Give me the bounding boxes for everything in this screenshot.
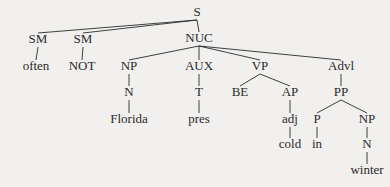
edge-NUC-Advl [199, 46, 341, 60]
leaf-in: in [311, 137, 323, 150]
node-p: P [312, 112, 321, 125]
edge-S-SM1 [38, 20, 197, 33]
node-advl: Advl [327, 59, 355, 72]
node-nuc: NUC [184, 31, 213, 44]
node-np-subject: NP [120, 59, 139, 72]
node-np-object: NP [358, 112, 377, 125]
node-s: S [192, 5, 201, 18]
leaf-pres: pres [187, 112, 211, 125]
edge-S-SM2 [83, 20, 197, 33]
node-n-object: N [361, 137, 372, 150]
node-pp: PP [333, 85, 349, 98]
node-adj: adj [281, 112, 299, 125]
leaf-cold: cold [278, 137, 302, 150]
syntax-tree-diagram: S NUC SM SM often NOT NP AUX VP Advl N T… [0, 0, 390, 187]
leaf-often: often [22, 59, 51, 72]
node-aux: AUX [184, 59, 214, 72]
node-sm-2: SM [73, 32, 94, 45]
node-be: BE [231, 85, 250, 98]
leaf-winter: winter [349, 163, 384, 176]
node-t: T [194, 85, 204, 98]
leaf-not: NOT [68, 59, 97, 72]
node-ap: AP [281, 85, 300, 98]
node-vp: VP [251, 59, 270, 72]
node-sm-1: SM [28, 32, 49, 45]
node-n-subject: N [123, 85, 134, 98]
leaf-florida: Florida [109, 112, 149, 125]
